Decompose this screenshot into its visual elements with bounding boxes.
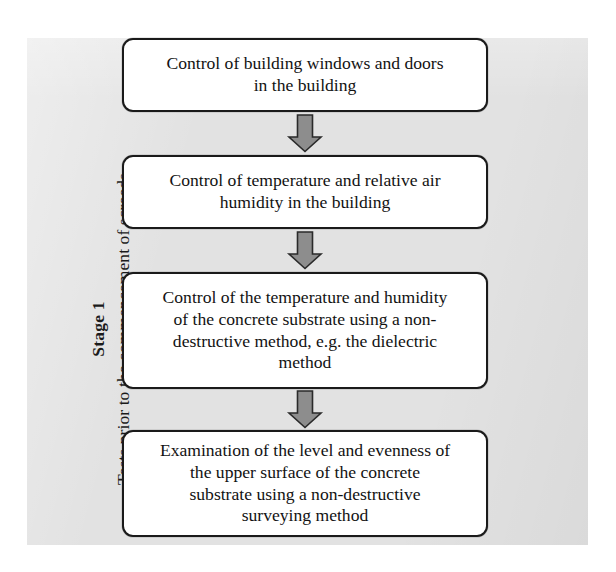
stage-label-column: Stage 1 Tests prior to the commencement … <box>27 38 122 545</box>
flow-node-3-line-1: Control of the temperature and humidity <box>163 287 448 309</box>
flow-node-4-text: Examination of the level and evenness of… <box>160 440 450 527</box>
flow-node-4: Examination of the level and evenness of… <box>122 430 488 537</box>
flow-node-4-line-2: the upper surface of the concrete <box>160 462 450 484</box>
flow-node-3-line-3: destructive method, e.g. the dielectric <box>163 331 448 353</box>
flow-node-3-line-4: method <box>163 352 448 374</box>
flow-node-4-line-4: surveying method <box>160 505 450 527</box>
flow-node-1-line-1: Control of building windows and doors <box>166 53 443 75</box>
flow-node-4-line-1: Examination of the level and evenness of <box>160 440 450 462</box>
stage-number-label: Stage 1 <box>90 301 108 356</box>
arrow-down-block-icon <box>285 113 325 153</box>
flow-node-2: Control of temperature and relative airh… <box>122 155 488 229</box>
flow-node-2-line-2: humidity in the building <box>169 192 440 214</box>
flow-node-4-line-3: substrate using a non-destructive <box>160 484 450 506</box>
flow-node-1-text: Control of building windows and doorsin … <box>166 53 443 97</box>
flow-node-1-line-2: in the building <box>166 75 443 97</box>
flow-node-3-line-2: of the concrete substrate using a non- <box>163 309 448 331</box>
flow-node-1: Control of building windows and doorsin … <box>122 38 488 112</box>
flow-node-2-line-1: Control of temperature and relative air <box>169 170 440 192</box>
flowchart: Control of building windows and doorsin … <box>122 38 488 538</box>
flow-node-2-text: Control of temperature and relative airh… <box>169 170 440 214</box>
flow-node-3-text: Control of the temperature and humidityo… <box>163 287 448 374</box>
flow-node-3: Control of the temperature and humidityo… <box>122 272 488 389</box>
arrow-down-block-icon <box>285 230 325 270</box>
arrow-down-block-icon <box>285 389 325 429</box>
